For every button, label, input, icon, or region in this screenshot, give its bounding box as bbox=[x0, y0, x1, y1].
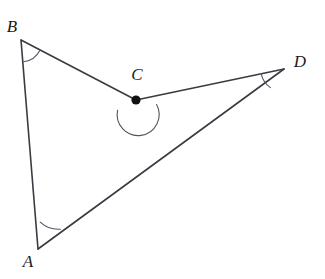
geometry-figure: B C D A bbox=[0, 0, 325, 279]
angle-arc-B bbox=[24, 50, 40, 62]
angle-arc-A bbox=[40, 222, 60, 229]
vertex-dots-group bbox=[131, 95, 140, 104]
vertex-label-A: A bbox=[22, 252, 34, 271]
angle-marks-group bbox=[24, 50, 271, 229]
vertex-label-D: D bbox=[293, 52, 307, 71]
segment-BA bbox=[21, 40, 38, 249]
segments-group bbox=[21, 40, 284, 249]
point-dot-C bbox=[131, 95, 140, 104]
vertex-label-C: C bbox=[131, 65, 143, 84]
segment-AD bbox=[38, 69, 284, 249]
vertex-label-B: B bbox=[7, 17, 18, 36]
segment-BC bbox=[21, 40, 136, 100]
vertex-labels-group: B C D A bbox=[7, 17, 307, 271]
geometry-canvas: B C D A bbox=[0, 0, 325, 279]
angle-arc-C-reflex bbox=[117, 105, 159, 136]
